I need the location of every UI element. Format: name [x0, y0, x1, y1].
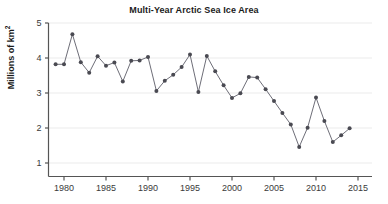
x-tick-label: 2015 [348, 183, 368, 193]
x-tick-label: 1980 [54, 183, 74, 193]
data-point-1979 [54, 62, 58, 66]
x-axis-ticks: 19801985199019952000200520102015 [54, 177, 368, 193]
data-point-2006 [280, 111, 284, 115]
data-point-1990 [146, 55, 150, 59]
data-point-1994 [180, 65, 184, 69]
y-tick-label: 3 [36, 88, 41, 98]
data-point-2000 [230, 96, 234, 100]
data-point-1995 [188, 53, 192, 57]
x-tick-label: 2000 [222, 183, 242, 193]
data-point-1988 [129, 59, 133, 63]
data-point-1983 [87, 71, 91, 75]
y-tick-label: 2 [36, 123, 41, 133]
x-tick-label: 2005 [264, 183, 284, 193]
data-point-1993 [171, 73, 175, 77]
data-point-1991 [154, 89, 158, 93]
data-point-1999 [222, 83, 226, 87]
y-axis-ticks: 12345 [36, 18, 48, 168]
data-point-1980 [62, 62, 66, 66]
data-point-1992 [163, 79, 167, 83]
data-point-1997 [205, 54, 209, 58]
y-tick-label: 1 [36, 158, 41, 168]
series-line [56, 34, 350, 147]
data-point-1986 [112, 61, 116, 65]
gridlines [49, 23, 373, 163]
data-point-2010 [314, 96, 318, 100]
data-point-2001 [238, 91, 242, 95]
x-tick-label: 1985 [96, 183, 116, 193]
chart-plot-area: 12345 19801985199019952000200520102015 [0, 0, 388, 204]
y-tick-label: 4 [36, 53, 41, 63]
data-point-2008 [297, 145, 301, 149]
data-point-2005 [272, 99, 276, 103]
data-line-series [56, 34, 350, 147]
data-point-2011 [322, 119, 326, 123]
data-point-1987 [121, 79, 125, 83]
data-point-2007 [289, 123, 293, 127]
data-point-1989 [138, 58, 142, 62]
data-point-1984 [96, 54, 100, 58]
data-point-markers [54, 32, 352, 149]
data-point-2004 [264, 87, 268, 91]
data-point-1981 [70, 32, 74, 36]
data-point-2002 [247, 75, 251, 79]
data-point-1982 [79, 60, 83, 64]
chart-figure: Multi-Year Arctic Sea Ice Area Millions … [0, 0, 388, 204]
data-point-2012 [331, 140, 335, 144]
x-tick-label: 2010 [306, 183, 326, 193]
data-point-1996 [196, 90, 200, 94]
data-point-2009 [306, 126, 310, 130]
data-point-2013 [339, 133, 343, 137]
data-point-1998 [213, 69, 217, 73]
y-tick-label: 5 [36, 18, 41, 28]
data-point-1985 [104, 64, 108, 68]
x-tick-label: 1995 [180, 183, 200, 193]
data-point-2014 [348, 126, 352, 130]
data-point-2003 [255, 76, 259, 80]
axis-lines [49, 23, 373, 177]
x-tick-label: 1990 [138, 183, 158, 193]
